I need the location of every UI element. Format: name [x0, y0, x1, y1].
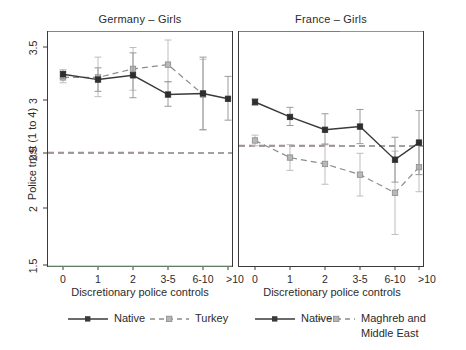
- series-france-native: [252, 99, 423, 182]
- plot-canvas: [0, 0, 466, 350]
- panel-frame-germany: [48, 32, 233, 267]
- legend-glyph-right-native: [255, 316, 295, 321]
- data-point-france-native-3: [357, 124, 362, 129]
- legend-label-right-native[interactable]: Native: [301, 312, 332, 324]
- data-point-germany-turkey-3: [165, 62, 170, 67]
- x-axis-ticks-right: [255, 267, 419, 271]
- data-point-france-maghreb-2: [322, 161, 327, 166]
- error-bar-germany-turkey-3: [165, 40, 172, 82]
- data-point-germany-native-5: [225, 96, 230, 101]
- data-point-france-maghreb-1: [287, 155, 292, 160]
- data-point-germany-native-1: [95, 77, 100, 82]
- data-point-germany-native-4: [200, 91, 205, 96]
- y-axis-ticks: [43, 47, 48, 265]
- data-point-france-native-5: [416, 140, 421, 145]
- data-point-france-maghreb-3: [357, 172, 362, 177]
- panel-frame-france: [239, 32, 424, 267]
- legend-glyph-left-turkey: [150, 316, 189, 321]
- data-point-france-native-0: [252, 99, 257, 104]
- figure-container: Germany – Girls France – Girls Police tr…: [0, 0, 466, 350]
- x-axis-ticks-left: [63, 267, 228, 271]
- data-point-germany-native-0: [60, 72, 65, 77]
- legend-label-right-maghreb-line1[interactable]: Maghreb and: [361, 312, 426, 324]
- data-point-france-maghreb-4: [392, 190, 397, 195]
- series-germany-native: [60, 53, 232, 130]
- data-point-france-maghreb-0: [252, 138, 257, 143]
- legend-glyph-left-native: [68, 316, 108, 321]
- legend-label-left-turkey[interactable]: Turkey: [195, 312, 228, 324]
- legend-label-right-maghreb-line2[interactable]: Middle East: [361, 327, 418, 339]
- legend-label-left-native[interactable]: Native: [114, 312, 145, 324]
- data-point-france-native-4: [392, 157, 397, 162]
- data-point-germany-native-2: [130, 73, 135, 78]
- series-france-maghreb: [252, 135, 423, 234]
- data-point-france-native-1: [287, 114, 292, 119]
- data-point-france-native-2: [322, 127, 327, 132]
- series-line-france-maghreb: [255, 140, 419, 192]
- data-point-germany-native-3: [165, 92, 170, 97]
